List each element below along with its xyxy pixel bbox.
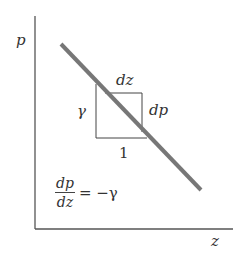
label-one: 1 — [119, 146, 129, 161]
fraction-numerator: dp — [55, 176, 75, 192]
equation-rhs: = −γ — [79, 184, 118, 202]
diagram-canvas: p z dz dp γ 1 dp dz = −γ — [0, 0, 233, 253]
slope-triangle-small — [105, 93, 142, 132]
label-dp: dp — [149, 103, 168, 118]
derivative-fraction: dp dz — [55, 176, 75, 209]
fraction-denominator: dz — [56, 193, 74, 209]
y-axis-label: p — [16, 33, 26, 48]
slope-equation: dp dz = −γ — [55, 176, 118, 209]
diagram-graphics — [0, 0, 233, 253]
label-gamma: γ — [77, 104, 86, 119]
label-dz: dz — [116, 73, 134, 88]
x-axis-label: z — [211, 234, 219, 249]
slope-triangle-large — [96, 84, 147, 138]
